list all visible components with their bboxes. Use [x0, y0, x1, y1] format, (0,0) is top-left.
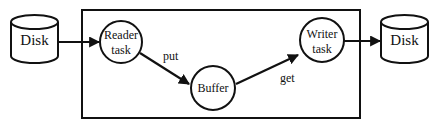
- writer-task-label-line2: task: [312, 42, 331, 56]
- source-disk-label: Disk: [20, 32, 49, 48]
- writer-task-node: Writer task: [300, 18, 344, 62]
- source-disk: Disk: [11, 15, 58, 63]
- get-label: get: [280, 71, 295, 85]
- target-disk: Disk: [381, 15, 428, 63]
- reader-task-label-line2: task: [111, 43, 130, 57]
- buffer-label: Buffer: [197, 81, 228, 95]
- reader-writer-diagram: Disk Reader task put Buffer get Writer t…: [0, 0, 442, 124]
- buffer-node: Buffer: [191, 66, 235, 110]
- target-disk-label: Disk: [390, 32, 419, 48]
- put-label: put: [163, 49, 179, 63]
- reader-task-node: Reader task: [100, 21, 142, 63]
- writer-task-label-line1: Writer: [307, 27, 338, 41]
- reader-task-label-line1: Reader: [104, 28, 138, 42]
